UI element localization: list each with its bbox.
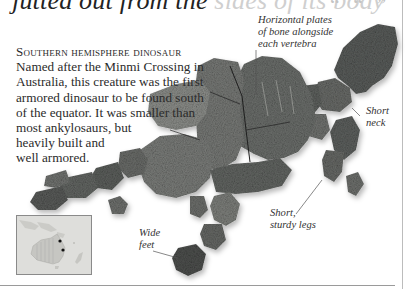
intro-line: well armored. [16, 150, 206, 165]
label-line: of bone alongside [258, 26, 333, 38]
neck-leader-line [352, 108, 360, 116]
intro-line: Named after the Minmi Crossing in [16, 59, 206, 74]
map-marker [58, 239, 61, 242]
label-wide-feet: Wide feet [139, 227, 160, 251]
label-line: Short, [270, 207, 316, 219]
bottom-rule [0, 285, 395, 286]
intro-line: heavily built and [16, 135, 206, 150]
map-graphic [17, 216, 92, 275]
label-line: Horizontal plates [258, 14, 333, 26]
label-line: Wide [139, 227, 160, 239]
intro-line: of the equator. It was smaller than [16, 105, 206, 120]
intro-line: armored dinosaur to be found south [16, 90, 206, 105]
label-line: sturdy legs [270, 219, 316, 231]
label-short-neck: Short neck [366, 105, 389, 129]
label-line: neck [366, 117, 389, 129]
map-marker [61, 248, 64, 251]
intro-line: most ankylosaurs, but [16, 120, 206, 135]
label-line: feet [139, 239, 160, 251]
label-line: Short [366, 105, 389, 117]
intro-title: Southern hemisphere dinosaur [16, 44, 206, 59]
label-line: each vertebra [258, 38, 333, 50]
locator-map-australia [16, 215, 92, 275]
intro-line: Australia, this creature was the first [16, 74, 206, 89]
intro-text-block: Southern hemisphere dinosaur Named after… [16, 44, 206, 166]
label-short-sturdy-legs: Short, sturdy legs [270, 207, 316, 231]
label-horizontal-plates: Horizontal plates of bone alongside each… [258, 14, 333, 50]
right-rule [402, 0, 403, 289]
